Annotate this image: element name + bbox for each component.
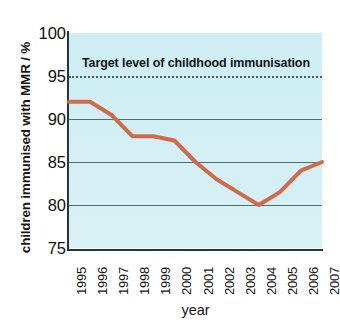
plot-area: Target level of childhood immunisation bbox=[69, 33, 322, 248]
y-tick-label-75: 75 bbox=[26, 240, 66, 257]
x-tick-label-2006: 2006 bbox=[306, 267, 321, 295]
y-tick-label-95: 95 bbox=[26, 68, 66, 85]
x-tick-label-2007: 2007 bbox=[327, 267, 340, 295]
x-tick-label-1996: 1996 bbox=[95, 267, 110, 295]
y-axis-tick-labels: 7580859095100 bbox=[26, 0, 66, 332]
x-tick-label-1997: 1997 bbox=[116, 267, 131, 295]
y-tick-label-85: 85 bbox=[26, 154, 66, 171]
x-tick-label-2004: 2004 bbox=[264, 267, 279, 295]
x-tick-label-1995: 1995 bbox=[74, 267, 89, 295]
mmr-immunisation-chart: children immunised with MMR / % 75808590… bbox=[0, 0, 340, 332]
y-tick-label-100: 100 bbox=[26, 25, 66, 42]
x-tick-label-2005: 2005 bbox=[285, 267, 300, 295]
x-tick-label-2000: 2000 bbox=[179, 267, 194, 295]
y-tick-label-80: 80 bbox=[26, 197, 66, 214]
x-tick-label-1999: 1999 bbox=[158, 267, 173, 295]
y-tick-label-90: 90 bbox=[26, 111, 66, 128]
x-tick-label-2002: 2002 bbox=[222, 267, 237, 295]
x-tick-label-1998: 1998 bbox=[137, 267, 152, 295]
x-tick-label-2003: 2003 bbox=[243, 267, 258, 295]
x-axis-title: year bbox=[69, 302, 322, 318]
x-axis-tick-labels: 1995199619971998199920002001200220032004… bbox=[69, 251, 322, 299]
data-series-line bbox=[69, 33, 322, 248]
x-tick-label-2001: 2001 bbox=[201, 267, 216, 295]
